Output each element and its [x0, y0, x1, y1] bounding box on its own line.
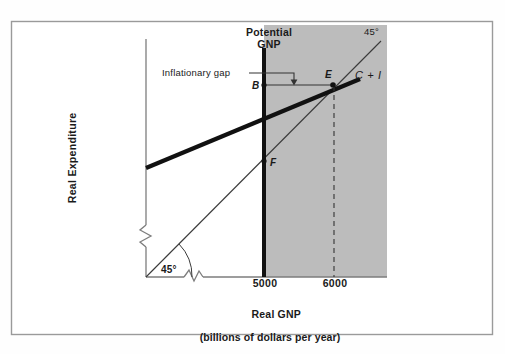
c-plus-i-label: C + I: [355, 69, 382, 81]
x-tick-label-5000: 5000: [244, 278, 286, 290]
x-axis-title: Real GNP (billions of dollars per year): [165, 297, 375, 354]
inflationary-gap-label: Inflationary gap: [162, 68, 230, 79]
x-axis-title-main: Real GNP: [252, 308, 301, 320]
forty-five-degree-label-top: 45°: [364, 27, 379, 38]
y-axis-title: Real Expenditure: [67, 78, 79, 238]
x-axis-subtitle: (billions of dollars per year): [165, 332, 375, 344]
point-label-b: B: [252, 80, 259, 91]
shaded-region: [264, 25, 387, 277]
point-marker-f: [261, 158, 266, 163]
point-label-e: E: [325, 69, 332, 80]
point-marker-e: [330, 82, 336, 88]
figure-canvas: Potential GNP Inflationary gap B E F C +…: [0, 0, 505, 354]
forty-five-degree-label-origin: 45°: [161, 264, 177, 275]
x-tick-label-6000: 6000: [314, 278, 356, 290]
point-label-f: F: [270, 157, 276, 168]
potential-gnp-label: Potential GNP: [232, 27, 306, 51]
point-marker-b: [261, 82, 266, 87]
